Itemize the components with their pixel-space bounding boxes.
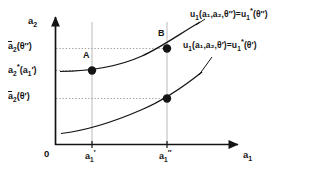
x-tick-1-prime: ″ bbox=[168, 148, 172, 157]
upper-args: (a₁,a₂,θ″) bbox=[199, 9, 236, 19]
lower-args: (a₁,a₂,θ′) bbox=[192, 40, 227, 50]
point-B-label: B bbox=[158, 29, 165, 38]
guide-horizontal-lines bbox=[56, 49, 167, 99]
origin-label: 0 bbox=[44, 149, 49, 159]
y-tick-1-argbase: (a bbox=[20, 65, 28, 75]
y-tick-label-abar2-theta-double-prime: a2(θ″) bbox=[8, 42, 32, 53]
point-A-marker[interactable] bbox=[88, 66, 96, 74]
guide-vertical-lines bbox=[92, 22, 167, 145]
x-axis-label-sub: 1 bbox=[248, 155, 252, 162]
x-tick-label-a1-prime: a1′ bbox=[85, 149, 96, 163]
lower-u2-args: (θ′) bbox=[244, 40, 257, 50]
x-axis-label: a1 bbox=[243, 150, 252, 162]
plot-canvas bbox=[0, 0, 314, 169]
upper-curve-label: u1(a₁,a₂,θ″)=u1*(θ″) bbox=[190, 7, 268, 21]
overbar-a-2: a bbox=[8, 92, 13, 101]
upper-u2-args: (θ″) bbox=[253, 9, 268, 19]
x-tick-label-a1-double-prime: a1″ bbox=[159, 149, 171, 163]
y-tick-label-abar2-theta-prime: a2(θ′) bbox=[8, 92, 30, 103]
y-axis-label: a2 bbox=[28, 16, 37, 28]
point-lower-marker[interactable] bbox=[163, 94, 171, 102]
indifference-curve-figure: a2 a1 0 a2(θ″) a2*(a1′) a2(θ′) a1′ a1″ A… bbox=[0, 0, 314, 169]
y-tick-0-arg: (θ″) bbox=[17, 41, 32, 51]
point-A-label: A bbox=[83, 51, 90, 60]
x-tick-0-prime: ′ bbox=[94, 148, 96, 157]
lower-curve-label: u1(a₁,a₂,θ′)=u1*(θ′) bbox=[183, 38, 257, 52]
point-B-marker[interactable] bbox=[163, 44, 171, 52]
y-tick-1-argprime: ′) bbox=[31, 65, 36, 75]
upper-indifference-curve bbox=[60, 22, 200, 72]
y-tick-2-arg: (θ′) bbox=[17, 91, 30, 101]
y-tick-label-a2-star: a2*(a1′) bbox=[8, 63, 37, 77]
leader-line-lower bbox=[199, 57, 212, 75]
y-axis-label-sub: 2 bbox=[33, 21, 37, 28]
overbar-a: a bbox=[8, 42, 13, 51]
lower-indifference-curve bbox=[61, 72, 202, 134]
